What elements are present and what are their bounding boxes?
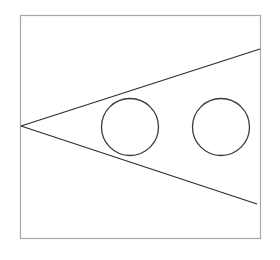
wedge-upper-line xyxy=(21,49,260,126)
circle-inside-wedge xyxy=(102,99,159,156)
frame-border xyxy=(21,16,261,239)
diagram-canvas xyxy=(0,0,280,260)
wedge-lower-line xyxy=(21,126,257,204)
circle-right xyxy=(193,99,250,156)
